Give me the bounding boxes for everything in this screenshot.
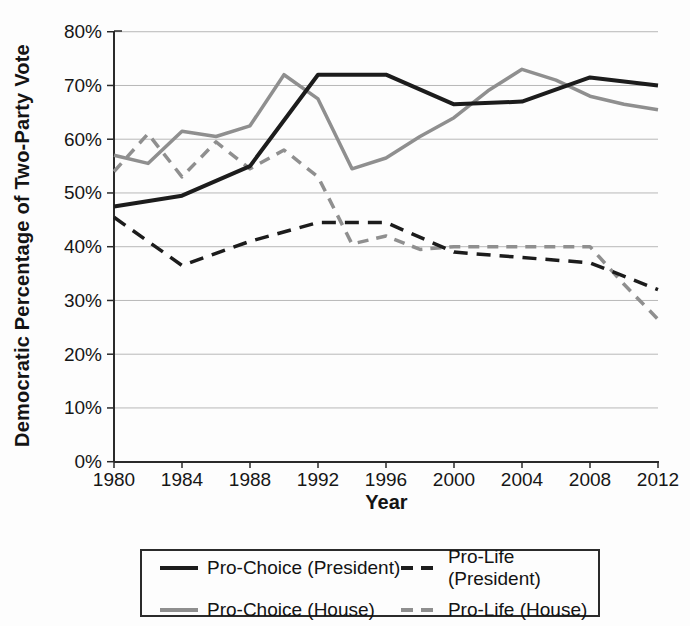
y-tick-label: 20% [64, 344, 102, 365]
y-tick-label: 60% [64, 129, 102, 150]
y-tick-label: 80% [64, 21, 102, 42]
x-tick-label: 1992 [297, 469, 339, 490]
y-tick-label: 50% [64, 182, 102, 203]
y-tick-label: 10% [64, 397, 102, 418]
x-tick-label: 2012 [637, 469, 679, 490]
x-tick-label: 1988 [229, 469, 271, 490]
x-axis-title: Year [114, 491, 659, 514]
legend-item-pro-life-president: Pro-Life (President) [401, 546, 598, 590]
x-tick-label: 2004 [501, 469, 544, 490]
legend-item-pro-choice-house: Pro-Choice (House) [160, 599, 401, 621]
x-tick-label: 1980 [93, 469, 135, 490]
x-tick-label: 2008 [569, 469, 611, 490]
y-tick-label: 30% [64, 290, 102, 311]
legend-item-pro-choice-president: Pro-Choice (President) [160, 546, 401, 590]
legend: Pro-Choice (President) Pro-Life (Preside… [140, 549, 600, 617]
y-tick-label: 70% [64, 75, 102, 96]
series-line-pro-choice-president [114, 75, 658, 207]
dashed-black-line-sample [401, 566, 439, 570]
legend-label: Pro-Choice (President) [207, 557, 400, 579]
y-tick-label: 40% [64, 236, 102, 257]
solid-black-line-sample [160, 566, 198, 570]
line-chart: 80%70%60%50%40%30%20%10%0%19801984198819… [0, 0, 690, 540]
legend-label: Pro-Choice (House) [207, 599, 375, 621]
solid-gray-line-sample [160, 608, 198, 612]
legend-label: Pro-Life (House) [448, 599, 587, 621]
series-line-pro-life-house [114, 134, 658, 319]
legend-label: Pro-Life (President) [448, 546, 598, 590]
y-axis-title: Democratic Percentage of Two-Party Vote [11, 36, 34, 456]
series-line-pro-life-president [114, 217, 658, 290]
x-tick-label: 1996 [365, 469, 407, 490]
x-tick-label: 2000 [433, 469, 475, 490]
dashed-gray-line-sample [401, 608, 439, 612]
legend-item-pro-life-house: Pro-Life (House) [401, 599, 598, 621]
x-tick-label: 1984 [161, 469, 204, 490]
figure: 80%70%60%50%40%30%20%10%0%19801984198819… [0, 0, 690, 626]
